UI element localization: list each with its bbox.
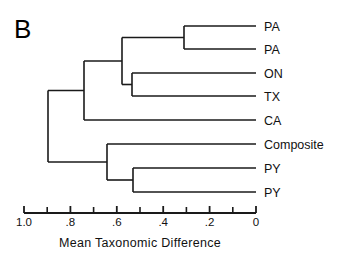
leaf-label-ca: CA bbox=[264, 114, 282, 128]
axis-tick-label-0: 0 bbox=[253, 216, 259, 228]
panel-label: B bbox=[14, 14, 32, 44]
leaf-labels: PA PA ON TX CA Composite PY PY bbox=[264, 20, 324, 200]
leaf-label-pa-2: PA bbox=[264, 43, 280, 57]
leaf-label-pa-1: PA bbox=[264, 20, 280, 34]
leaf-label-py-1: PY bbox=[264, 162, 281, 176]
dendrogram-branches bbox=[48, 26, 256, 192]
leaf-label-tx: TX bbox=[264, 90, 281, 104]
axis-tick-label-0-2: .2 bbox=[205, 216, 215, 228]
leaf-label-py-2: PY bbox=[264, 186, 281, 200]
dendrogram-plot: B bbox=[0, 0, 339, 265]
x-axis bbox=[24, 206, 256, 213]
x-axis-title: Mean Taxonomic Difference bbox=[59, 236, 221, 250]
axis-tick-label-0-8: .8 bbox=[66, 216, 76, 228]
leaf-label-composite: Composite bbox=[264, 138, 324, 152]
axis-tick-label-0-6: .6 bbox=[112, 216, 122, 228]
x-axis-tick-labels: 1.0 .8 .6 .4 .2 0 bbox=[16, 216, 259, 228]
axis-tick-label-0-4: .4 bbox=[158, 216, 168, 228]
leaf-label-on: ON bbox=[264, 67, 283, 81]
dendrogram-figure: B bbox=[0, 0, 339, 265]
axis-tick-label-1-0: 1.0 bbox=[16, 216, 32, 228]
